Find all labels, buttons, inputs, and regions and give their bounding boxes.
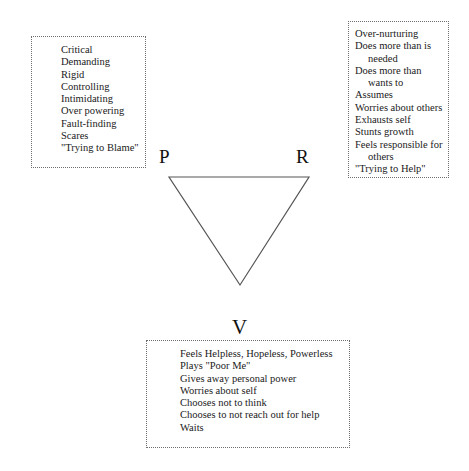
list-item: Feels Helpless, Hopeless, Powerless — [180, 348, 349, 360]
list-item: Intimidating — [61, 93, 145, 105]
list-item: Scares — [61, 130, 145, 142]
list-item: Waits — [180, 422, 349, 434]
victim-traits-list: Feels Helpless, Hopeless, Powerless Play… — [180, 348, 349, 434]
list-item-text: Over-nurturing — [355, 28, 418, 39]
list-item: Does more thanwants to — [355, 65, 448, 90]
list-item: Exhausts self — [355, 114, 448, 126]
list-item-continuation: wants to — [355, 77, 448, 89]
list-item: Controlling — [61, 81, 145, 93]
persecutor-traits-box: Critical Demanding Rigid Controlling Int… — [31, 36, 146, 168]
list-item: Fault-finding — [61, 118, 145, 130]
list-item-text: Stunts growth — [355, 126, 414, 137]
victim-vertex-label: V — [232, 318, 247, 337]
list-item: Chooses not to think — [180, 397, 349, 409]
list-item: Chooses to not reach out for help — [180, 409, 349, 421]
list-item: "Trying to Help" — [355, 163, 448, 175]
list-item-continuation: needed — [355, 53, 448, 65]
victim-traits-box: Feels Helpless, Hopeless, Powerless Play… — [146, 340, 350, 448]
list-item-text: Does more than is — [355, 40, 431, 51]
persecutor-vertex-label: P — [159, 147, 170, 166]
rescuer-traits-box: Over-nurturing Does more than isneeded D… — [348, 21, 449, 178]
list-item: Worries about others — [355, 102, 448, 114]
list-item: Demanding — [61, 56, 145, 68]
rescuer-vertex-label: R — [296, 147, 309, 166]
list-item-text: Worries about others — [355, 102, 442, 113]
list-item: "Trying to Blame" — [61, 142, 145, 154]
list-item: Over-nurturing — [355, 28, 448, 40]
list-item: Critical — [61, 44, 145, 56]
list-item: Assumes — [355, 89, 448, 101]
list-item: Feels responsible forothers — [355, 139, 448, 164]
list-item-text: Does more than — [355, 65, 421, 76]
list-item-text: Feels responsible for — [355, 139, 442, 150]
list-item: Gives away personal power — [180, 373, 349, 385]
list-item: Does more than isneeded — [355, 40, 448, 65]
list-item: Over powering — [61, 105, 145, 117]
list-item: Plays "Poor Me" — [180, 360, 349, 372]
list-item-text: "Trying to Help" — [355, 163, 426, 174]
persecutor-traits-list: Critical Demanding Rigid Controlling Int… — [61, 44, 145, 155]
list-item-text: Assumes — [355, 89, 393, 100]
rescuer-traits-list: Over-nurturing Does more than isneeded D… — [355, 28, 448, 176]
list-item-continuation: others — [355, 151, 448, 163]
list-item: Worries about self — [180, 385, 349, 397]
list-item: Rigid — [61, 69, 145, 81]
list-item-text: Exhausts self — [355, 114, 411, 125]
list-item: Stunts growth — [355, 126, 448, 138]
